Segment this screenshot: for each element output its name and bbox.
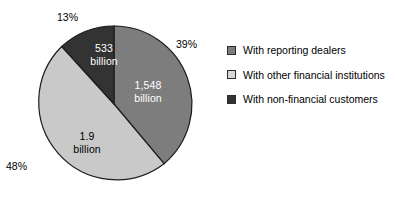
legend-swatch-icon [227, 70, 236, 79]
legend-item-with-reporting-dealers[interactable]: With reporting dealers [227, 44, 393, 56]
slice-percent-other-financial-institutions: 48% [6, 160, 27, 172]
legend-swatch-icon [227, 46, 236, 55]
chart-legend: With reporting dealers With other financ… [227, 44, 393, 118]
legend-item-label: With reporting dealers [243, 44, 346, 56]
pie-chart-figure: 1,548 billion 1.9 billion 533 billion 39… [0, 0, 395, 209]
slice-percent-reporting-dealers: 39% [176, 38, 197, 50]
legend-item-with-other-financial-institutions[interactable]: With other financial institutions [227, 69, 393, 81]
legend-swatch-icon [227, 95, 236, 104]
legend-item-label: With non-financial customers [243, 93, 378, 105]
pie-svg [0, 0, 230, 209]
legend-item-label: With other financial institutions [243, 69, 385, 81]
legend-item-with-non-financial-customers[interactable]: With non-financial customers [227, 93, 393, 105]
pie-plot-area: 1,548 billion 1.9 billion 533 billion 39… [0, 0, 230, 209]
slice-percent-non-financial-customers: 13% [57, 11, 78, 23]
